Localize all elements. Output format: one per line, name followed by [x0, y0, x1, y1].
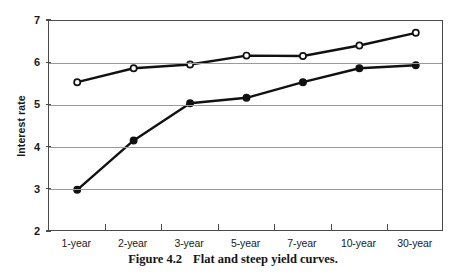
data-point-s0-5-year — [243, 53, 249, 59]
gridline-y-6 — [49, 63, 442, 64]
figure-caption: Figure 4.2Flat and steep yield curves. — [0, 252, 466, 267]
data-point-s1-7-year — [300, 79, 306, 85]
data-point-s0-7-year — [300, 53, 306, 59]
data-point-s0-2-year — [131, 65, 137, 71]
gridline-y-4 — [49, 147, 442, 148]
x-tick-mark-6 — [387, 224, 388, 230]
x-tick-mark-3 — [218, 224, 219, 230]
x-tick-label-7-year: 7-year — [287, 237, 316, 249]
gridline-y-3 — [49, 189, 442, 190]
data-point-s1-2-year — [131, 137, 137, 143]
y-tick-mark-7 — [46, 19, 51, 20]
x-tick-mark-5 — [331, 224, 332, 230]
series-layer — [49, 21, 444, 232]
series-line-1 — [77, 65, 416, 189]
x-tick-label-1-year: 1-year — [62, 237, 91, 249]
y-tick-label-2: 2 — [18, 225, 40, 237]
x-tick-label-2-year: 2-year — [118, 237, 147, 249]
y-axis-title: Interest rate — [8, 20, 34, 231]
y-tick-label-6: 6 — [18, 56, 40, 68]
caption-number: Figure 4.2 — [128, 252, 182, 266]
y-tick-mark-5 — [46, 104, 51, 105]
data-point-s0-10-year — [356, 42, 362, 48]
data-point-s1-5-year — [243, 95, 249, 101]
data-point-s0-30-year — [413, 30, 419, 36]
y-tick-mark-6 — [46, 62, 51, 63]
y-tick-label-5: 5 — [18, 98, 40, 110]
data-point-s1-10-year — [356, 65, 362, 71]
y-tick-label-7: 7 — [18, 14, 40, 26]
y-tick-mark-3 — [46, 188, 51, 189]
x-tick-mark-4 — [274, 224, 275, 230]
x-tick-label-30-year: 30-year — [397, 237, 432, 249]
data-point-s0-1-year — [74, 79, 80, 85]
y-tick-mark-2 — [46, 230, 51, 231]
x-tick-label-5-year: 5-year — [231, 237, 260, 249]
gridline-y-5 — [49, 105, 442, 106]
y-tick-label-3: 3 — [18, 183, 40, 195]
figure-container: Interest rate 2345671-year2-year3-year5-… — [0, 0, 466, 275]
plot-area — [48, 20, 443, 231]
y-tick-mark-4 — [46, 146, 51, 147]
x-tick-label-3-year: 3-year — [174, 237, 203, 249]
caption-text: Flat and steep yield curves. — [193, 252, 338, 266]
x-tick-mark-1 — [105, 224, 106, 230]
y-tick-label-4: 4 — [18, 141, 40, 153]
x-tick-mark-2 — [161, 224, 162, 230]
x-tick-label-10-year: 10-year — [341, 237, 376, 249]
